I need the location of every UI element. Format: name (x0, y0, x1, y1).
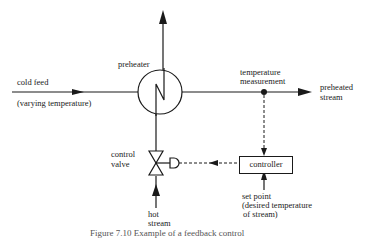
set-point-label-3: of stream) (243, 209, 278, 219)
figure-caption: Figure 7.10 Example of a feedback contro… (90, 228, 244, 238)
varying-temperature-label: (varying temperature) (17, 98, 91, 108)
control-valve-label-2: valve (111, 159, 129, 169)
temperature-measurement-label-2: measurement (240, 76, 285, 86)
controller-box: controller (239, 156, 293, 174)
controller-label: controller (249, 159, 282, 169)
preheater-label: preheater (118, 59, 150, 69)
hot-stream-label-2: stream (148, 218, 171, 228)
preheated-stream-label-1: preheated (320, 82, 353, 92)
cold-feed-line (12, 89, 138, 95)
control-valve-icon (149, 151, 179, 175)
control-valve-label-1: control (111, 149, 135, 159)
temperature-sensor-point (261, 89, 267, 95)
measurement-signal-line (261, 95, 267, 156)
process-diagram (0, 0, 368, 239)
preheated-stream-line (182, 88, 312, 96)
preheated-stream-label-2: stream (320, 92, 343, 102)
cold-feed-label: cold feed (17, 77, 48, 87)
heating-medium-outlet-line (159, 10, 167, 70)
control-signal-line (179, 160, 239, 166)
preheater-icon (138, 68, 182, 116)
